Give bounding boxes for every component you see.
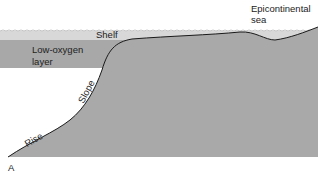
label-shelf: Shelf — [96, 29, 118, 40]
label-low-oxygen-line1: Low-oxygen — [32, 44, 83, 55]
label-epicontinental-line1: Epicontinental — [251, 3, 311, 14]
panel-label: A — [8, 162, 14, 173]
continental-margin-diagram — [0, 0, 318, 174]
label-epicontinental-line2: sea — [251, 14, 266, 25]
sea-surface-wave — [0, 30, 318, 31]
label-low-oxygen-line2: layer — [32, 56, 53, 67]
